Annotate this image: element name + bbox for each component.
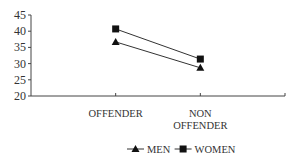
- triangle-marker: [112, 38, 120, 45]
- x-axis: OFFENDERNONOFFENDER: [31, 93, 285, 131]
- y-tick-label: 30: [14, 57, 26, 71]
- series-men: [112, 38, 205, 71]
- legend-item-men: MEN: [127, 144, 171, 155]
- square-marker: [112, 25, 119, 32]
- y-tick-label: 45: [14, 8, 26, 22]
- y-tick-label: 25: [14, 73, 26, 87]
- series-lines: [112, 25, 205, 70]
- y-tick-label: 20: [14, 89, 26, 103]
- legend: MENWOMEN: [127, 144, 236, 155]
- x-category-label: OFFENDER: [89, 108, 143, 119]
- legend-label: MEN: [147, 144, 171, 155]
- legend-item-women: WOMEN: [175, 144, 236, 155]
- y-axis: 202530354045: [14, 8, 31, 103]
- legend-label: WOMEN: [195, 144, 236, 155]
- line-chart: 202530354045 OFFENDERNONOFFENDER MENWOME…: [0, 0, 301, 163]
- square-marker: [180, 146, 187, 153]
- x-category-label: NON: [189, 108, 212, 119]
- series-women: [112, 25, 204, 62]
- x-category-label: OFFENDER: [173, 120, 227, 131]
- y-tick-label: 40: [14, 24, 26, 38]
- y-tick-label: 35: [14, 40, 26, 54]
- square-marker: [197, 56, 204, 63]
